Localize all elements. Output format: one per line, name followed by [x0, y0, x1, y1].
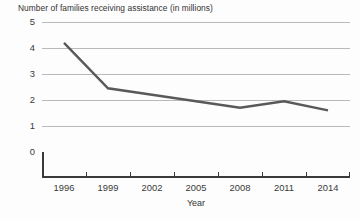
y-axis-tick-label: 5	[30, 17, 35, 26]
line-chart: Number of families receiving assistance …	[0, 0, 360, 221]
plot-area: Year 0123451996199920022005200820112014	[42, 22, 350, 178]
x-axis-tick-label: 2002	[142, 183, 163, 192]
data-polyline	[64, 43, 328, 111]
y-axis-tick-label: 3	[30, 69, 35, 78]
x-axis-title: Year	[187, 198, 205, 208]
x-axis-tick-label: 2005	[186, 183, 207, 192]
y-axis-tick-label: 1	[30, 121, 35, 130]
x-axis-tick-label: 1999	[98, 183, 119, 192]
x-axis-tick-label: 2014	[318, 183, 339, 192]
x-axis-tick-label: 2011	[274, 183, 294, 192]
y-axis-tick-label: 0	[30, 147, 35, 156]
x-axis-tick-label: 2008	[230, 183, 251, 192]
y-axis-tick-label: 4	[30, 43, 35, 52]
series-line	[42, 22, 350, 178]
chart-title: Number of families receiving assistance …	[18, 3, 213, 13]
y-axis-tick-label: 2	[30, 95, 35, 104]
x-axis-tick-label: 1996	[54, 183, 75, 192]
